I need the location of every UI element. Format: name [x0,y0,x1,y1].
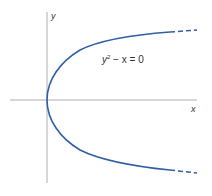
parabola-upper-dashed-extension [170,30,197,32]
parabola-figure: y x y2 − x = 0 [0,0,212,196]
parabola-curve-lower [47,100,170,170]
equation-rest: − x = 0 [110,54,144,65]
equation-label: y2 − x = 0 [101,54,144,65]
y-axis-label: y [50,11,56,21]
x-axis-label: x [190,104,196,114]
parabola-curve [47,32,170,100]
chart-canvas: y x y2 − x = 0 [0,0,212,196]
parabola-lower-dashed-extension [170,170,197,173]
